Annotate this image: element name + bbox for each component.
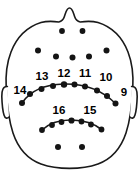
electrode-dot-f-1 xyxy=(35,48,41,54)
electrode-dot-la-1 xyxy=(39,127,45,133)
electrode-dot-ua-5 xyxy=(61,81,67,87)
electrode-label-9: 9 xyxy=(121,86,127,98)
electrode-dot-ua-4 xyxy=(50,83,56,89)
electrode-label-11: 11 xyxy=(79,67,92,79)
electrode-dot-ua-8 xyxy=(94,88,100,94)
electrode-dot-la-6 xyxy=(88,122,94,128)
electrode-dot-f-5 xyxy=(104,48,110,54)
electrode-label-16: 16 xyxy=(53,104,66,116)
electrode-dot-oc-right xyxy=(79,144,85,150)
electrode-dot-la-7 xyxy=(99,127,105,133)
electrode-dot-f-4 xyxy=(86,54,92,60)
electrode-dot-ua-3 xyxy=(39,86,45,92)
electrode-dot-ua-9 xyxy=(104,93,110,99)
eeg-electrode-diagram: 141312111091615 xyxy=(0,0,139,174)
eeg-head-map-svg: 141312111091615 xyxy=(0,0,139,174)
electrode-dot-la-5 xyxy=(79,119,85,125)
electrode-dot-ua-10 xyxy=(113,101,119,107)
electrode-dot-oc-left xyxy=(55,144,61,150)
electrode-dot-ua-6 xyxy=(72,82,78,88)
electrode-label-14: 14 xyxy=(14,84,27,96)
electrode-dot-fp-left xyxy=(59,28,65,34)
electrode-dot-ua-7 xyxy=(82,84,88,90)
electrode-dot-la-3 xyxy=(59,119,65,125)
electrode-dot-ua-2 xyxy=(27,91,33,97)
electrode-dot-ua-1 xyxy=(19,100,25,106)
electrode-label-15: 15 xyxy=(84,104,97,116)
electrode-label-13: 13 xyxy=(36,70,49,82)
electrode-dot-la-4 xyxy=(68,117,74,123)
electrode-dot-f-2 xyxy=(53,54,59,60)
electrode-dot-la-2 xyxy=(49,122,55,128)
electrode-label-10: 10 xyxy=(100,71,113,83)
electrode-dot-f-3 xyxy=(70,55,76,61)
electrode-label-12: 12 xyxy=(58,67,71,79)
electrode-dot-fp-right xyxy=(80,28,86,34)
